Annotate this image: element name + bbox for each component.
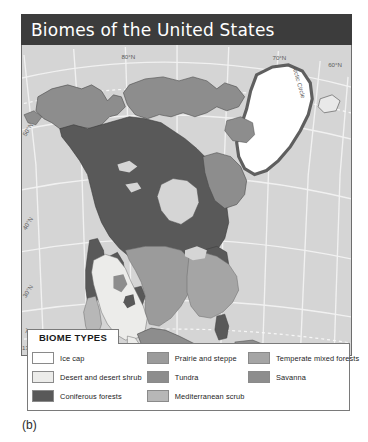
legend-swatch-prairie-and-steppe xyxy=(147,352,169,364)
legend-column-1: Ice cap Desert and desert shrub Conifero… xyxy=(32,350,147,410)
page-title: Biomes of the United States xyxy=(31,20,275,40)
legend-item-mediterranean-scrub: Mediterranean scrub xyxy=(147,388,248,404)
legend-item-ice-cap: Ice cap xyxy=(32,350,147,366)
legend-label-mediterranean-scrub: Mediterranean scrub xyxy=(175,392,245,401)
legend-swatch-coniferous-forests xyxy=(32,390,54,402)
map-canvas: 80°N 70°N 60°N 50°N 40°N 30°N Arctic Cir… xyxy=(21,45,352,356)
legend-item-tundra: Tundra xyxy=(147,369,248,385)
legend-item-desert-and-desert-shrub: Desert and desert shrub xyxy=(32,369,147,385)
legend-label-savanna: Savanna xyxy=(276,373,306,382)
legend-label-desert-and-desert-shrub: Desert and desert shrub xyxy=(60,373,142,382)
legend-swatch-ice-cap xyxy=(32,352,54,364)
legend-swatch-temperate-mixed-forests xyxy=(248,352,270,364)
legend-label-tundra: Tundra xyxy=(175,373,199,382)
legend-label-coniferous-forests: Coniferous forests xyxy=(60,392,122,401)
legend-title-tab: BIOME TYPES xyxy=(27,329,119,344)
label-lat-80n: 80°N xyxy=(121,53,135,60)
legend-columns: Ice cap Desert and desert shrub Conifero… xyxy=(28,344,349,410)
legend-label-prairie-and-steppe: Prairie and steppe xyxy=(175,354,237,363)
map-graphic: 80°N 70°N 60°N 50°N 40°N 30°N Arctic Cir… xyxy=(22,45,351,355)
legend-column-3: Temperate mixed forests Savanna xyxy=(248,350,349,410)
legend-item-savanna: Savanna xyxy=(248,369,349,385)
legend-item-temperate-mixed-forests: Temperate mixed forests xyxy=(248,350,349,366)
label-lat-70n: 70°N xyxy=(272,54,286,61)
legend-swatch-savanna xyxy=(248,371,270,383)
legend-title-text: BIOME TYPES xyxy=(39,332,107,343)
legend-item-coniferous-forests: Coniferous forests xyxy=(32,388,147,404)
legend-swatch-mediterranean-scrub xyxy=(147,390,169,402)
map-legend: Ice cap Desert and desert shrub Conifero… xyxy=(27,343,350,411)
legend-label-temperate-mixed-forests: Temperate mixed forests xyxy=(276,354,359,363)
figure-caption: (b) xyxy=(22,418,37,432)
legend-swatch-tundra xyxy=(147,371,169,383)
figure-title-bar: Biomes of the United States xyxy=(21,14,352,45)
legend-column-2: Prairie and steppe Tundra Mediterranean … xyxy=(147,350,248,410)
legend-item-prairie-and-steppe: Prairie and steppe xyxy=(147,350,248,366)
figure-biomes-of-the-united-states: Biomes of the United States xyxy=(0,0,368,442)
legend-swatch-desert-and-desert-shrub xyxy=(32,371,54,383)
legend-label-ice-cap: Ice cap xyxy=(60,354,85,363)
label-lat-60n: 60°N xyxy=(328,61,342,68)
